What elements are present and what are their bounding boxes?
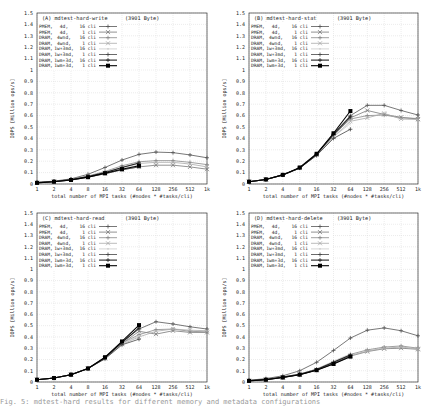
y-tick-label: 0.3: [236, 147, 245, 153]
y-tick-label: 1.2: [24, 44, 33, 50]
y-tick-label: 1: [30, 67, 33, 73]
data-point-marker: [69, 178, 73, 182]
legend-config: 4d,: [272, 230, 280, 235]
x-tick-label: 128: [363, 186, 372, 192]
legend-memory: DRAM,: [251, 252, 265, 257]
x-tick-label: 1: [35, 186, 38, 192]
data-point-marker: [188, 325, 192, 329]
legend-memory: PMEM,: [251, 24, 265, 29]
y-axis-label: IOPS [Million ops/s]: [221, 277, 228, 337]
y-tick-label: 0: [30, 379, 33, 385]
y-tick-label: 1.1: [236, 55, 245, 61]
y-tick-label: 0.1: [24, 368, 33, 374]
legend-config: 4wnd,: [269, 235, 283, 240]
y-tick-label: 1.3: [24, 232, 33, 238]
chart-panel-a: 00.10.20.30.40.50.60.70.80.911.11.21.31.…: [0, 0, 212, 200]
legend-clients: 16 cli: [79, 58, 96, 63]
x-tick-label: 16: [314, 384, 320, 390]
legend-clients: 16 cli: [291, 24, 308, 29]
legend-clients: 16 cli: [79, 235, 96, 240]
y-tick-label: 1: [242, 266, 245, 272]
legend-config: 4d,: [60, 24, 68, 29]
legend-memory: DRAM,: [251, 258, 265, 263]
legend-clients: 1 cli: [82, 252, 96, 257]
y-tick-label: 0.8: [24, 289, 33, 295]
x-tick-label: 512: [185, 384, 194, 390]
legend-memory: DRAM,: [251, 246, 265, 251]
y-tick-label: 0.6: [236, 112, 245, 118]
data-point-marker: [188, 153, 192, 157]
legend-memory: PMEM,: [251, 30, 265, 35]
legend-memory: PMEM,: [39, 224, 53, 229]
x-tick-label: 32: [330, 186, 336, 192]
data-point-marker: [365, 103, 369, 107]
x-tick-label: 256: [380, 186, 389, 192]
legend-clients: 16 cli: [79, 246, 96, 251]
legend-clients: 16 cli: [79, 35, 96, 40]
legend-clients: 16 cli: [79, 258, 96, 263]
legend-memory: DRAM,: [39, 246, 53, 251]
y-tick-label: 0.2: [24, 356, 33, 362]
data-point-marker: [416, 113, 420, 117]
x-tick-label: 1k: [415, 186, 421, 192]
chart-panel-d: 00.10.20.30.40.50.60.70.80.911.11.21.31.…: [212, 200, 423, 398]
y-tick-label: 0.1: [24, 169, 33, 175]
data-point-marker: [120, 167, 124, 171]
data-point-marker: [35, 378, 39, 382]
data-point-marker: [120, 158, 124, 162]
y-tick-label: 0.6: [24, 311, 33, 317]
data-point-marker: [399, 108, 403, 112]
y-tick-label: 1.1: [24, 55, 33, 61]
legend-config: 1wm+3d,: [54, 258, 73, 263]
y-tick-label: 0.9: [24, 78, 33, 84]
legend-config: 4wnd,: [269, 41, 283, 46]
x-tick-label: 1: [35, 384, 38, 390]
legend-clients: 1 cli: [82, 230, 96, 235]
legend-config: 4wnd,: [269, 35, 283, 40]
legend-config: 1w+3md,: [266, 246, 285, 251]
chart-title: (B) mdtest-hard-stat: [254, 15, 316, 21]
data-point-marker: [315, 368, 319, 372]
x-tick-label: 128: [151, 384, 160, 390]
y-tick-label: 0.8: [236, 90, 245, 96]
legend-clients: 1 cli: [294, 52, 308, 57]
y-tick-label: 0.6: [236, 311, 245, 317]
data-point-marker: [264, 177, 268, 181]
x-tick-label: 4: [281, 186, 284, 192]
x-tick-label: 8: [298, 384, 301, 390]
x-tick-label: 32: [119, 384, 125, 390]
data-point-marker: [35, 181, 39, 185]
legend-clients: 1 cli: [82, 52, 96, 57]
data-point-marker: [416, 334, 420, 338]
legend-marker: [318, 264, 322, 268]
legend-memory: DRAM,: [39, 35, 53, 40]
legend-config: 4d,: [272, 30, 280, 35]
legend-memory: PMEM,: [39, 30, 53, 35]
chart-subtitle: (3901 Byte): [337, 215, 371, 222]
x-tick-label: 1: [247, 186, 250, 192]
y-tick-label: 1.5: [236, 210, 245, 216]
y-tick-label: 1.4: [236, 21, 245, 27]
y-tick-label: 1.5: [236, 10, 245, 16]
legend-config: 1w+3md,: [266, 252, 285, 257]
legend-marker: [107, 48, 109, 50]
y-tick-label: 0.3: [236, 345, 245, 351]
legend-marker: [106, 264, 110, 268]
y-tick-label: 1.2: [236, 44, 245, 50]
legend-memory: PMEM,: [39, 230, 53, 235]
legend-marker: [106, 64, 110, 68]
legend-memory: DRAM,: [251, 235, 265, 240]
legend-clients: 1 cli: [294, 241, 308, 246]
y-axis-ticks: 00.10.20.30.40.50.60.70.80.911.11.21.31.…: [24, 10, 33, 187]
x-tick-label: 32: [330, 384, 336, 390]
data-point-marker: [103, 355, 107, 359]
x-tick-label: 8: [86, 186, 89, 192]
y-axis-ticks: 00.10.20.30.40.50.60.70.80.911.11.21.31.…: [236, 10, 245, 187]
legend-memory: DRAM,: [39, 263, 53, 268]
x-tick-label: 2: [264, 186, 267, 192]
legend-memory: DRAM,: [39, 58, 53, 63]
y-axis-ticks: 00.10.20.30.40.50.60.70.80.911.11.21.31.…: [24, 210, 33, 385]
y-tick-label: 1.3: [236, 33, 245, 39]
legend-config: 1w+3md,: [266, 52, 285, 57]
legend-clients: 1 cli: [294, 63, 308, 68]
